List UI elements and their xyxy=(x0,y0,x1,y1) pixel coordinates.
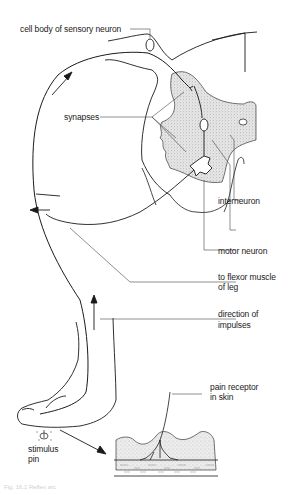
spinal-cord-dorsal xyxy=(212,33,245,40)
sensory-neuron xyxy=(33,39,190,414)
label-synapses: synapses xyxy=(64,112,99,122)
skin-section xyxy=(114,392,218,476)
label-interneuron: interneuron xyxy=(218,196,260,206)
label-flexor-2: of leg xyxy=(218,282,238,292)
label-direction-1: direction of xyxy=(218,309,258,319)
stimulus-pin-icon xyxy=(36,430,52,440)
central-canal xyxy=(239,119,247,125)
label-direction-2: impulses xyxy=(218,320,251,330)
leg-outline xyxy=(18,318,117,427)
label-stimulus-1: stimulus xyxy=(28,444,58,454)
label-stimulus-2: pin xyxy=(28,454,39,464)
interneuron-cell-body xyxy=(200,119,208,131)
sensory-cell-body xyxy=(146,39,154,51)
label-pain-2: in skin xyxy=(210,392,233,402)
label-flexor-1: to flexor muscle xyxy=(218,272,276,282)
label-pain-1: pain receptor xyxy=(210,382,258,392)
leader-lines xyxy=(70,29,240,394)
label-motor-neuron: motor neuron xyxy=(218,246,267,256)
arrows xyxy=(30,72,106,454)
label-cell-body: cell body of sensory neuron xyxy=(20,24,121,34)
figure-caption: Fig. 16.1 Reflex arc xyxy=(4,484,56,490)
